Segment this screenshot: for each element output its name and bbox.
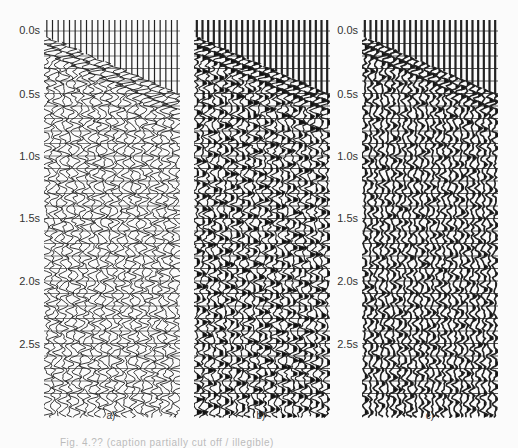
tick-label: 1.0s xyxy=(4,150,40,162)
panel-a-label: a) xyxy=(96,410,126,421)
seismic-figure: 0.0s 0.5s 1.0s 1.5s 2.0s 2.5s 0.0s 0.5s … xyxy=(0,0,518,448)
tick-label: 0.0s xyxy=(4,24,40,36)
panel-b-variable-area xyxy=(194,20,330,418)
tick-label: 2.5s xyxy=(4,338,40,350)
panel-c-label: c) xyxy=(415,410,445,421)
tick-label: 2.0s xyxy=(4,275,40,287)
tick-label: 1.5s xyxy=(4,212,40,224)
panel-c-variable-area-dense xyxy=(362,20,498,418)
figure-caption: Fig. 4.?? (caption partially cut off / i… xyxy=(60,437,500,448)
panel-b-label: b) xyxy=(246,410,276,421)
panel-a-wiggle xyxy=(44,20,180,418)
tick-label: 0.5s xyxy=(4,88,40,100)
